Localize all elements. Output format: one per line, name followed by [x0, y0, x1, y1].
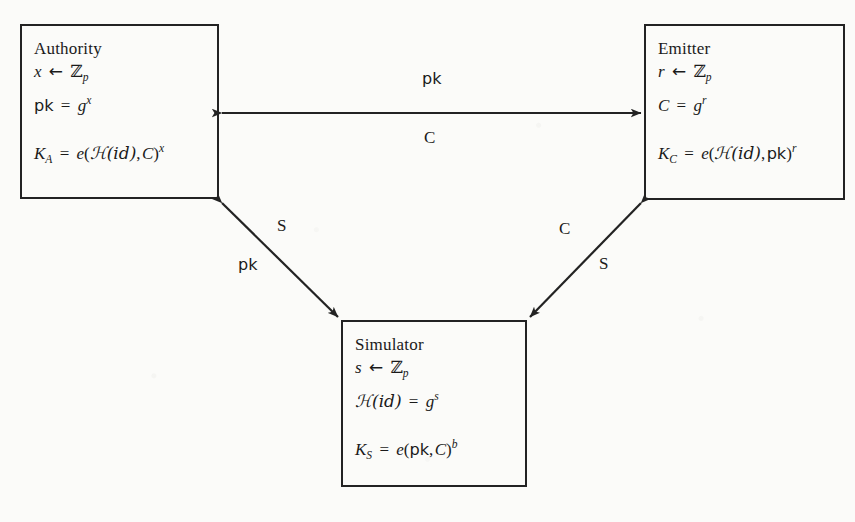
node-simulator-derive: ℋ(id) = gs — [355, 385, 519, 413]
authority-derive-lhs: pk — [34, 96, 54, 115]
emitter-sample-arrow: ← — [669, 61, 689, 81]
edge-label-emitter-simulator-secondary: S — [599, 254, 608, 273]
authority-sample-set: ℤ — [70, 61, 82, 81]
simulator-key-name: K — [355, 440, 366, 459]
node-simulator-key: KS = e(pk, C)b — [355, 433, 519, 467]
edge-emitter-simulator — [530, 203, 641, 317]
simulator-sample-set: ℤ — [390, 357, 402, 377]
authority-key-name-sub: A — [45, 153, 52, 166]
node-simulator-sample: s ← ℤp — [355, 356, 519, 385]
emitter-key-pairing: e — [701, 144, 709, 163]
simulator-sample-set-sub: p — [403, 367, 409, 380]
authority-derive-exp: x — [86, 94, 91, 107]
edge-label-authority-simulator-primary: S — [277, 216, 286, 235]
emitter-sample-var: r — [658, 62, 665, 81]
emitter-key-arg2: pk — [767, 144, 787, 163]
emitter-key-name-sub: C — [669, 153, 677, 166]
emitter-derive-eq: = — [674, 96, 690, 115]
authority-key-arg1: ℋ(id) — [90, 143, 137, 163]
simulator-key-name-sub: S — [366, 449, 372, 462]
simulator-key-arg1: pk — [409, 440, 429, 459]
emitter-spacer — [658, 117, 837, 137]
simulator-key-eq: = — [376, 440, 392, 459]
emitter-sample-set: ℤ — [693, 61, 705, 81]
node-authority-title: Authority — [34, 37, 211, 60]
node-authority-key: KA = e(ℋ(id), C)x — [34, 137, 211, 171]
edge-label-emitter-simulator-primary: C — [559, 219, 570, 238]
node-emitter-key: KC = e(ℋ(id), pk)r — [658, 137, 837, 171]
authority-key-eq: = — [57, 144, 73, 163]
authority-key-exp: x — [159, 142, 164, 155]
node-simulator[interactable]: Simulator s ← ℤp ℋ(id) = gs KS = e(pk, C… — [341, 320, 527, 487]
node-authority-sample: x ← ℤp — [34, 60, 211, 89]
simulator-sample-var: s — [355, 358, 362, 377]
authority-spacer — [34, 117, 211, 137]
simulator-derive-base: g — [426, 392, 435, 411]
authority-sample-set-sub: p — [83, 71, 89, 84]
simulator-derive-lhs: ℋ(id) — [355, 391, 402, 411]
authority-derive-eq: = — [58, 96, 74, 115]
emitter-derive-base: g — [693, 96, 702, 115]
emitter-sample-set-sub: p — [706, 71, 712, 84]
edge-label-authority-emitter-primary: pk — [422, 69, 441, 88]
authority-sample-arrow: ← — [46, 61, 66, 81]
node-authority-derive: pk = gx — [34, 89, 211, 117]
node-emitter-derive: C = gr — [658, 89, 837, 117]
simulator-sample-arrow: ← — [366, 357, 386, 377]
node-simulator-title: Simulator — [355, 333, 519, 356]
emitter-key-exp: r — [792, 142, 797, 155]
authority-key-pairing: e — [77, 144, 85, 163]
edge-label-authority-emitter-secondary: C — [424, 128, 435, 147]
edge-label-authority-simulator-secondary: pk — [238, 255, 257, 274]
emitter-key-arg1: ℋ(id) — [714, 143, 761, 163]
authority-key-arg2: C — [142, 144, 153, 163]
simulator-spacer — [355, 413, 519, 433]
simulator-key-arg2: C — [435, 440, 446, 459]
authority-sample-var: x — [34, 62, 42, 81]
node-emitter-title: Emitter — [658, 37, 837, 60]
emitter-key-name: K — [658, 144, 669, 163]
simulator-derive-eq: = — [406, 392, 422, 411]
simulator-key-exp: b — [452, 438, 458, 451]
authority-derive-base: g — [78, 96, 87, 115]
node-emitter[interactable]: Emitter r ← ℤp C = gr KC = e(ℋ(id), pk)r — [644, 24, 845, 200]
emitter-derive-exp: r — [702, 94, 707, 107]
simulator-key-pairing: e — [396, 440, 404, 459]
node-authority[interactable]: Authority x ← ℤp pk = gx KA = e(ℋ(id), C… — [20, 24, 219, 199]
simulator-derive-exp: s — [434, 390, 439, 403]
emitter-key-eq: = — [681, 144, 697, 163]
node-emitter-sample: r ← ℤp — [658, 60, 837, 89]
emitter-derive-lhs: C — [658, 96, 669, 115]
protocol-diagram-figure: Authority x ← ℤp pk = gx KA = e(ℋ(id), C… — [0, 0, 855, 522]
authority-key-name: K — [34, 144, 45, 163]
